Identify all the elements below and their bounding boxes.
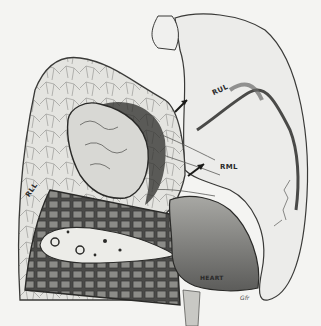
label-heart: HEART (200, 274, 224, 281)
trachea (152, 16, 178, 50)
illustration-drawing (0, 0, 321, 326)
label-rml: RML (220, 163, 238, 171)
artist-signature: Gfr (240, 294, 249, 301)
lung-illustration: RUL RML RLL HEART Gfr (0, 0, 321, 326)
heart (169, 196, 258, 326)
